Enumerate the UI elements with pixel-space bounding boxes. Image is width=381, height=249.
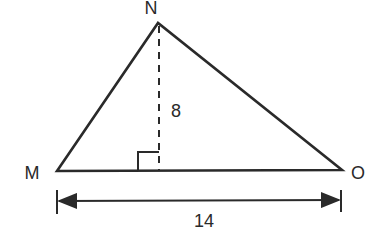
altitude-label: 8 — [171, 101, 181, 121]
triangle — [57, 23, 342, 171]
vertex-label-n: N — [145, 0, 158, 18]
triangle-diagram: N M O 8 14 — [0, 0, 381, 249]
base-length-label: 14 — [194, 211, 214, 231]
right-angle-marker — [138, 152, 159, 171]
dimension-arrow-line — [59, 200, 339, 201]
triangle-mno — [57, 23, 342, 171]
vertex-label-m: M — [25, 163, 40, 183]
vertex-label-o: O — [351, 163, 365, 183]
